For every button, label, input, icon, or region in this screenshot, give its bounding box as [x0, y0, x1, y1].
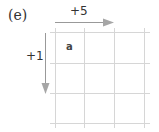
horizontal-step-label: +5 [70, 4, 88, 18]
vertical-arrow [42, 33, 50, 94]
cell-label: a [66, 41, 73, 52]
panel-label: (e) [8, 7, 27, 23]
vertical-step-label: +1 [26, 49, 44, 63]
horizontal-arrow [55, 19, 114, 27]
grid-lines [50, 28, 150, 128]
